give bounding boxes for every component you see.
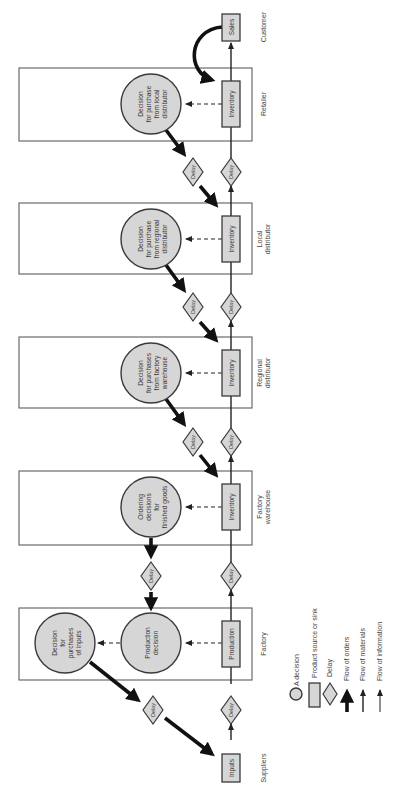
legend-decision-label: A decision xyxy=(293,654,300,686)
stage-label-factory: Factory xyxy=(260,632,268,656)
svg-text:for: for xyxy=(153,502,160,510)
svg-text:finished goods: finished goods xyxy=(161,485,169,528)
sales-label: Sales xyxy=(228,18,235,35)
legend-information-label: Flow of information xyxy=(376,622,383,681)
production-decision-text: Production decision xyxy=(144,627,159,659)
svg-text:for purchase: for purchase xyxy=(145,85,153,122)
orders-arrow xyxy=(165,718,212,754)
svg-text:from factory: from factory xyxy=(153,355,161,391)
supply-chain-diagram: Sales Inventory Inventory Inventory Inve… xyxy=(0,0,394,801)
delay-label: Delay xyxy=(228,703,234,717)
svg-text:Ordering: Ordering xyxy=(137,494,145,520)
delay-label: Delay xyxy=(190,435,196,449)
local-inventory-label: Inventory xyxy=(228,225,236,253)
warehouse-inventory-label: Inventory xyxy=(228,493,236,521)
svg-text:Regional: Regional xyxy=(256,359,264,387)
svg-text:distributor: distributor xyxy=(161,224,168,254)
svg-text:warehouse: warehouse xyxy=(161,357,168,391)
inputs-label: Inputs xyxy=(228,758,236,777)
svg-text:for purchase: for purchase xyxy=(145,220,153,257)
svg-text:Factory: Factory xyxy=(256,495,264,519)
delay-label: Delay xyxy=(228,569,234,583)
delay-label: Delay xyxy=(150,703,156,717)
svg-text:distributor: distributor xyxy=(161,89,168,119)
svg-text:Local: Local xyxy=(256,230,263,247)
svg-text:for: for xyxy=(59,638,66,646)
svg-text:distributor: distributor xyxy=(264,223,271,254)
legend: A decision Product source or sink Delay … xyxy=(290,608,383,712)
delay-label: Delay xyxy=(228,165,234,179)
svg-text:from local: from local xyxy=(153,89,160,118)
stage-label-suppliers: Suppliers xyxy=(260,753,268,783)
stage-label-regional-distributor: Regional distributor xyxy=(256,357,271,388)
orders-arrow xyxy=(166,399,184,424)
delay-label: Delay xyxy=(190,165,196,179)
svg-text:for purchases: for purchases xyxy=(145,352,153,393)
svg-text:Decision: Decision xyxy=(51,630,58,656)
svg-text:decision: decision xyxy=(152,631,159,656)
svg-text:decisions: decisions xyxy=(145,493,152,521)
svg-text:purchases: purchases xyxy=(67,627,75,658)
legend-delay-label: Delay xyxy=(326,659,334,677)
svg-text:Decision: Decision xyxy=(137,91,144,117)
stage-label-retailer: Retailer xyxy=(260,91,267,116)
delay-label: Delay xyxy=(148,569,154,583)
svg-text:warehouse: warehouse xyxy=(264,490,271,525)
orders-arrow xyxy=(200,186,216,205)
svg-text:Production: Production xyxy=(144,627,151,659)
svg-text:Decision: Decision xyxy=(137,360,144,386)
stage-label-factory-warehouse: Factory warehouse xyxy=(256,490,271,525)
svg-text:distributor: distributor xyxy=(264,357,271,388)
legend-decision-icon xyxy=(290,688,302,700)
orders-arrow xyxy=(166,265,184,290)
delay-label: Delay xyxy=(228,300,234,314)
svg-text:from regional: from regional xyxy=(153,219,161,258)
orders-arrow-sales-to-retailer xyxy=(194,27,222,80)
legend-materials-label: Flow of materials xyxy=(359,628,366,681)
legend-source-sink-icon xyxy=(309,683,320,707)
stage-label-customer: Customer xyxy=(260,11,267,42)
production-decision-circle xyxy=(121,613,181,673)
orders-arrow xyxy=(200,455,216,475)
delay-label: Delay xyxy=(190,300,196,314)
legend-source-sink-label: Product source or sink xyxy=(311,608,318,678)
regional-inventory-label: Inventory xyxy=(228,359,236,387)
svg-text:Decision: Decision xyxy=(137,226,144,252)
inputs-decision-text: Decision for purchases of inputs xyxy=(51,627,83,658)
production-label: Production xyxy=(228,628,235,660)
orders-arrow xyxy=(90,662,138,700)
legend-orders-label: Flow of orders xyxy=(343,636,350,681)
orders-arrow xyxy=(166,130,184,154)
retailer-inventory-label: Inventory xyxy=(228,90,236,118)
legend-delay-icon xyxy=(323,683,337,705)
svg-text:of inputs: of inputs xyxy=(75,630,83,656)
delay-label: Delay xyxy=(228,435,234,449)
stage-label-local-distributor: Local distributor xyxy=(256,223,271,254)
